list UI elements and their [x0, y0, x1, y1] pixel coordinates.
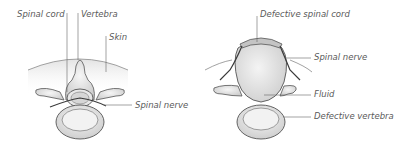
label-vertebra: Vertebra [81, 10, 118, 19]
defect-spine-figure [205, 16, 312, 139]
vertebral-body-inner [62, 109, 98, 131]
skin-outline-right [290, 60, 312, 72]
diagram-canvas [0, 0, 411, 152]
label-fluid: Fluid [314, 90, 334, 99]
label-spinal-cord: Spinal cord [17, 10, 65, 19]
label-defective-spinal-cord: Defective spinal cord [260, 10, 350, 19]
skin-outline-left [205, 60, 232, 70]
label-defective-vertebra: Defective vertebra [314, 112, 394, 121]
transverse-process-left [214, 85, 242, 96]
fluid-sac [235, 40, 287, 102]
defective-vertebral-body-inner [243, 108, 279, 130]
transverse-process-left [36, 88, 64, 100]
label-spinal-nerve-defect: Spinal nerve [314, 53, 367, 62]
label-skin: Skin [109, 33, 127, 42]
label-spinal-nerve: Spinal nerve [135, 101, 188, 110]
transverse-process-right [96, 88, 124, 100]
